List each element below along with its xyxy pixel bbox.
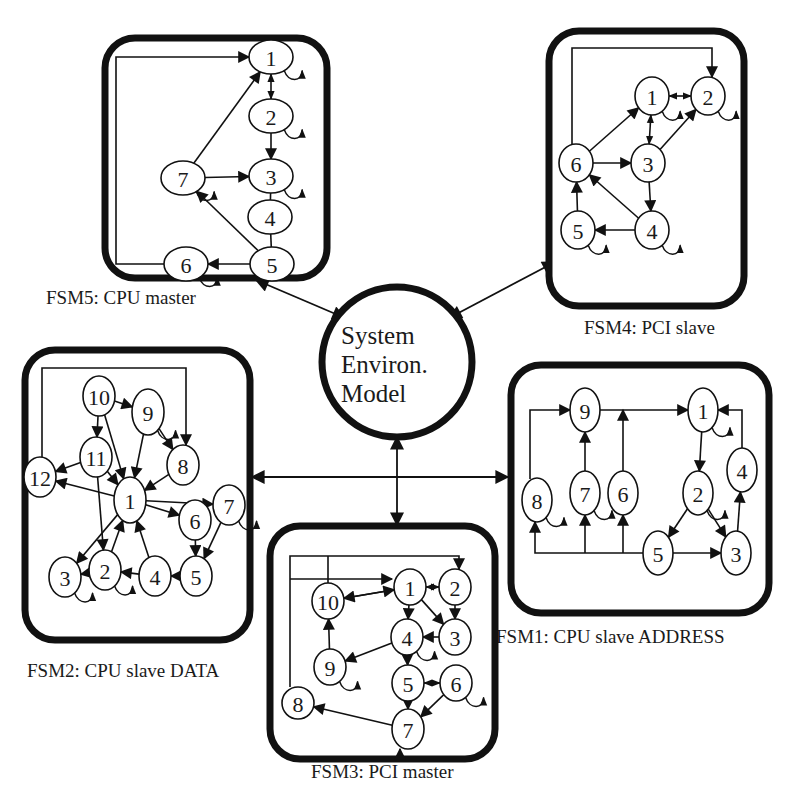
state-label: 7 [580,482,591,507]
hub-label-line-3: Model [341,380,406,407]
transition-5-6 [577,182,578,211]
state-label: 7 [178,167,189,192]
state-label: 5 [403,672,414,697]
state-node: 6 [164,247,208,281]
state-node: 5 [250,247,294,281]
state-node: 7 [213,485,245,525]
state-node: 12 [24,457,56,497]
state-label: 3 [60,566,71,591]
state-node: 2 [691,77,725,115]
state-node: 3 [439,619,471,655]
state-node: 1 [249,40,293,74]
state-label: 1 [405,576,416,601]
transition-4-5 [271,234,272,247]
state-label: 8 [293,692,304,717]
state-node: 7 [392,709,424,749]
state-node: 2 [249,99,293,133]
fsm3-caption: FSM3: PCI master [311,761,454,782]
state-node: 6 [440,665,472,701]
state-node: 4 [391,619,423,655]
state-node: 3 [249,159,293,193]
state-label: 8 [178,454,189,479]
state-label: 1 [647,85,658,110]
state-node: 1 [635,77,669,115]
state-label: 4 [265,206,276,231]
state-label: 3 [266,165,277,190]
state-node: 5 [392,665,424,701]
fsm-system-diagram: FSM5: CPU master1234567FSM4: PCI slave12… [0,0,793,796]
state-node: 2 [439,569,471,605]
state-label: 4 [402,626,413,651]
state-label: 1 [266,46,277,71]
state-node: 8 [167,445,199,485]
state-label: 5 [191,565,202,590]
state-label: 3 [450,626,461,651]
fsm5-box [105,38,327,278]
fsm5-group: FSM5: CPU master1234567 [46,38,327,308]
state-label: 4 [737,459,748,484]
state-label: 3 [731,542,742,567]
fsm5-caption: FSM5: CPU master [46,287,197,308]
fsm4-caption: FSM4: PCI slave [584,317,715,338]
state-node: 1 [114,477,146,523]
transition-10-11 [97,416,98,437]
state-node: 2 [89,550,121,590]
hub-label-line-2: Environ. [341,351,428,378]
state-node: 3 [631,144,665,182]
state-node: 6 [559,144,593,182]
transition-7-3 [205,176,249,177]
state-node: 3 [721,531,751,575]
state-label: 2 [266,105,277,130]
state-label: 4 [150,565,161,590]
state-node: 7 [161,161,205,195]
state-label: 6 [451,672,462,697]
state-label: 1 [125,489,136,514]
state-node: 5 [561,211,595,249]
state-node: 4 [727,448,757,492]
state-label: 4 [647,219,658,244]
state-label: 3 [643,152,654,177]
state-label: 10 [317,590,339,615]
state-label: 2 [693,482,704,507]
state-node: 5 [180,556,212,596]
transition-1-4 [408,605,409,619]
state-label: 6 [571,152,582,177]
fsm3-group: FSM3: PCI master12345678910 [270,526,495,782]
state-node: 9 [314,649,346,685]
state-node: 10 [83,376,115,416]
state-node: 4 [248,200,292,234]
state-label: 9 [143,401,154,426]
state-node: 8 [282,687,314,719]
state-node: 4 [139,556,171,596]
state-label: 8 [532,489,543,514]
state-node: 11 [80,437,112,477]
state-label: 10 [88,385,110,410]
state-node: 9 [132,389,164,435]
state-label: 7 [224,494,235,519]
fsm1-caption: FSM1: CPU slave ADDRESS [496,626,725,647]
state-node: 1 [394,569,426,605]
state-label: 2 [703,85,714,110]
state-node: 6 [608,471,638,515]
hub-label-line-1: System [341,322,415,349]
state-label: 12 [29,466,51,491]
state-node: 4 [635,211,669,249]
state-node: 10 [312,583,344,619]
transition-9-10 [329,619,330,649]
state-node: 3 [49,557,81,597]
fsm2-caption: FSM2: CPU slave DATA [27,660,219,681]
state-label: 9 [325,656,336,681]
fsm1-group: FSM1: CPU slave ADDRESS123456789 [496,365,769,647]
state-node: 2 [683,471,713,515]
fsm2-group: FSM2: CPU slave DATA123456789101112 [24,350,257,681]
state-node: 8 [522,478,552,522]
state-node: 7 [570,471,600,515]
state-label: 5 [653,542,664,567]
state-label: 11 [85,446,106,471]
state-node: 5 [643,531,673,575]
state-label: 5 [267,253,278,278]
state-node: 6 [179,500,211,540]
state-label: 9 [580,399,591,424]
state-node: 1 [688,388,718,432]
state-label: 6 [618,482,629,507]
